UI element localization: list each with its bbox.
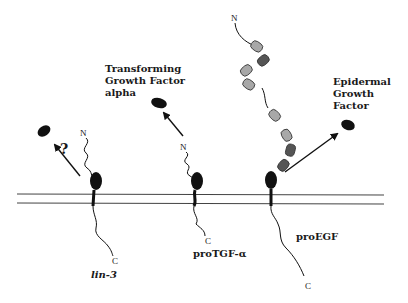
lin-3-released-factor — [35, 123, 52, 139]
growth-factor-diagram: ? N C lin-3 N C proTGF-α Transforming Gr… — [0, 0, 408, 303]
protgf-alpha-c-terminus: C — [205, 236, 211, 246]
tgf-alpha-label-line-3: alpha — [105, 87, 137, 98]
protgf-alpha-protein — [150, 96, 205, 236]
lin-3-protein — [35, 123, 113, 256]
lin-3-n-terminus: N — [80, 128, 87, 138]
proegf-n-terminus: N — [231, 13, 238, 23]
lin-3-release-question: ? — [60, 141, 68, 157]
tgf-alpha-label-line-2: Growth Factor — [105, 75, 186, 86]
tgf-alpha-domain — [191, 172, 203, 190]
egf-label-line-2: Growth — [333, 88, 375, 99]
egf-released-factor — [340, 118, 357, 132]
proegf-c-terminus: C — [305, 281, 311, 291]
proegf-label: proEGF — [296, 231, 338, 242]
protgf-alpha-label: proTGF-α — [193, 248, 247, 259]
egf-label-line-1: Epidermal — [333, 76, 391, 87]
tgf-alpha-released-factor — [150, 96, 168, 110]
lin-3-label: lin-3 — [91, 269, 117, 280]
lin-3-egf-domain — [90, 172, 102, 190]
egf-domain — [265, 171, 277, 189]
tgf-alpha-label-line-1: Transforming — [105, 63, 181, 74]
lin-3-c-terminus: C — [112, 256, 118, 266]
egf-label-line-3: Factor — [333, 100, 369, 111]
tgf-alpha-release-arrow — [164, 113, 183, 136]
cell-membrane — [17, 194, 384, 204]
protgf-alpha-n-terminus: N — [180, 142, 187, 152]
